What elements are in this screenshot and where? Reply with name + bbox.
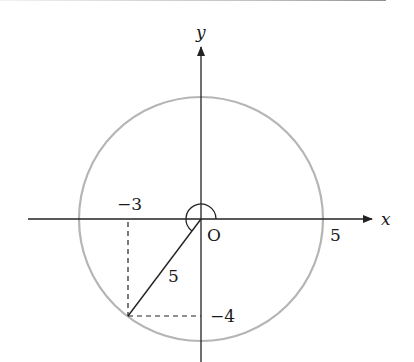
origin-label: O: [207, 225, 221, 245]
coordinate-diagram: y x O −3 5 5 −4: [0, 0, 414, 362]
y-axis-label: y: [195, 22, 206, 42]
x-axis-label: x: [381, 209, 391, 229]
x-coordinate-label: −3: [117, 194, 142, 214]
x-intercept-label: 5: [330, 225, 341, 245]
terminal-side-segment: [128, 219, 201, 316]
y-coordinate-label: −4: [210, 306, 235, 326]
radius-segment-label: 5: [168, 266, 179, 286]
